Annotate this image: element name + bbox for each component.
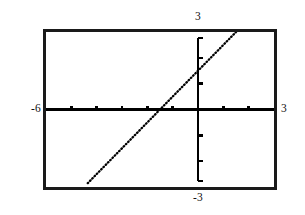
function-curve: [88, 32, 236, 183]
graph-viewport: [43, 29, 277, 190]
plot-area: [46, 32, 274, 187]
plot-canvas: [46, 32, 274, 187]
calculator-screen: 3 -6 3 -3: [0, 0, 305, 215]
window-ymin-label: -3: [188, 192, 208, 204]
window-xmin-label: -6: [19, 103, 41, 115]
function-plot-layer: [88, 32, 236, 183]
window-ymax-label: 3: [190, 11, 206, 23]
window-xmax-label: 3: [281, 103, 299, 115]
